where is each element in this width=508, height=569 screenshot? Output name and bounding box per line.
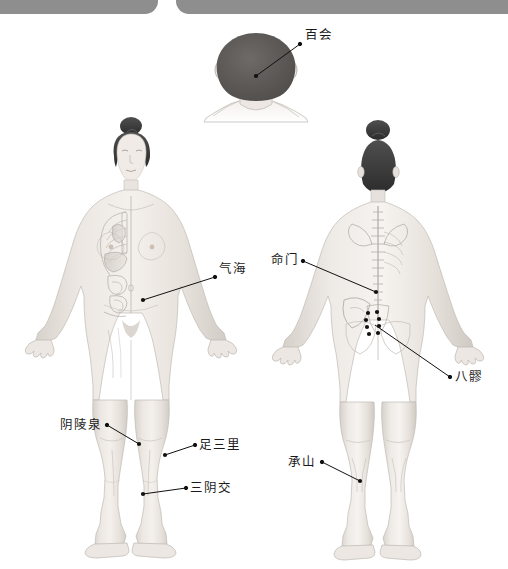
anatomy-canvas (0, 0, 508, 569)
head-figure (204, 33, 308, 122)
anchor-dot-yinlingquan (105, 423, 108, 426)
anchor-dot-zusanli (193, 443, 196, 446)
acupoint-label-baliao: 八髎 (455, 371, 483, 384)
anchor-dot-chengshan (320, 460, 323, 463)
anchor-dot-sanyinjiao (184, 486, 187, 489)
anchor-dot-baihui (298, 42, 301, 45)
acupoint-label-qihai: 气海 (219, 263, 247, 276)
acupoint-label-yinlingquan: 阴陵泉 (60, 419, 103, 432)
acupoint-label-mingmen: 命门 (271, 254, 299, 267)
acupoint-label-zusanli: 足三里 (199, 439, 242, 452)
anchor-dot-mingmen (301, 259, 304, 262)
anchor-dot-baliao (448, 375, 451, 378)
back-figure (272, 120, 483, 560)
leader-line-zusanli (165, 445, 195, 455)
anchor-dot-qihai (213, 275, 216, 278)
acupoint-label-baihui: 百会 (305, 29, 333, 42)
acupoint-label-sanyinjiao: 三阴交 (190, 482, 233, 495)
acupoint-label-chengshan: 承山 (288, 456, 316, 469)
illustration-stage: 百会 气海 阴陵泉 足三里 三阴交 命门 八髎 承山 (0, 0, 508, 569)
